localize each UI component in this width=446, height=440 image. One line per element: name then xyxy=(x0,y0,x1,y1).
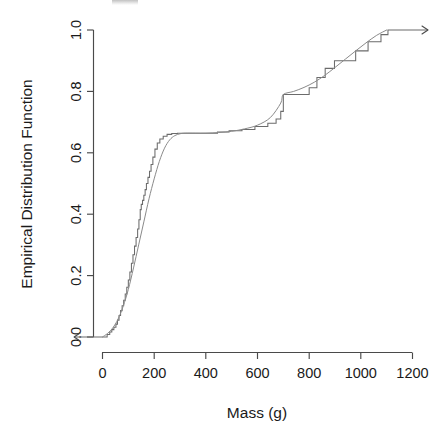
ecdf-step-curve xyxy=(74,30,428,337)
ecdf-plot-svg: 1.0 0.8 0.6 0.4 0.2 0.0 0 200 400 600 80… xyxy=(0,0,446,440)
x-axis: 0 200 400 600 800 1000 1200 xyxy=(98,353,428,382)
y-tick-label-1.0: 1.0 xyxy=(68,20,84,40)
y-tick-label-0.4: 0.4 xyxy=(68,204,84,224)
y-axis: 1.0 0.8 0.6 0.4 0.2 0.0 xyxy=(68,20,94,347)
x-axis-title: Mass (g) xyxy=(227,404,287,421)
x-tick-label-200: 200 xyxy=(142,365,166,381)
x-tick-label-600: 600 xyxy=(245,365,269,381)
smooth-fitted-curve xyxy=(103,30,387,337)
x-tick-label-1200: 1200 xyxy=(396,365,428,381)
y-tick-label-0.2: 0.2 xyxy=(68,266,84,286)
plot-series-group xyxy=(74,30,428,337)
x-tick-label-0: 0 xyxy=(98,365,106,381)
y-tick-label-0.6: 0.6 xyxy=(68,143,84,163)
x-tick-label-800: 800 xyxy=(297,365,321,381)
x-tick-label-400: 400 xyxy=(194,365,218,381)
x-tick-label-1000: 1000 xyxy=(345,365,377,381)
y-axis-title: Empirical Distribution Function xyxy=(18,79,35,288)
y-tick-label-0.8: 0.8 xyxy=(68,81,84,101)
chart-figure: 1.0 0.8 0.6 0.4 0.2 0.0 0 200 400 600 80… xyxy=(0,0,446,440)
